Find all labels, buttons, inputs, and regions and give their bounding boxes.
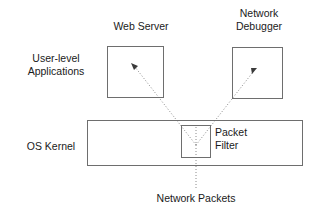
packet-filter-label: Packet Filter: [215, 126, 275, 151]
web-server-box[interactable]: [107, 46, 164, 98]
os-kernel-label: OS Kernel: [16, 140, 86, 153]
user-level-applications-label: User-level Applications: [16, 52, 96, 77]
network-packets-label: Network Packets: [146, 192, 246, 205]
network-debugger-box[interactable]: [232, 47, 283, 99]
diagram-canvas: User-level Applications Web Server Netwo…: [0, 0, 315, 215]
packet-filter-box[interactable]: [181, 125, 211, 158]
network-debugger-label: Network Debugger: [219, 7, 299, 32]
web-server-label: Web Server: [101, 20, 181, 33]
